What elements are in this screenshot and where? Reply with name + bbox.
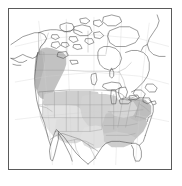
- north-america-map: [9, 9, 171, 169]
- map-frame: [8, 8, 172, 170]
- distribution-map-figure: [0, 0, 182, 186]
